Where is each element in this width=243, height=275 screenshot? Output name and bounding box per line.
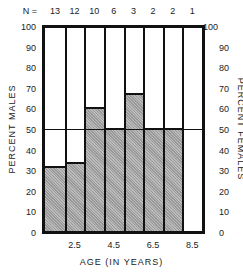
y-tick-left: 20: [16, 187, 36, 197]
y-tick-right: 100: [203, 22, 218, 32]
y-tick-left: 100: [16, 22, 36, 32]
y-tick-right: 80: [219, 63, 229, 73]
y-tick-left: 50: [16, 125, 36, 135]
y-axis-label-left: PERCENT MALES: [7, 79, 17, 179]
y-tick-right: 60: [219, 104, 229, 114]
n-value: 1: [182, 6, 202, 16]
bar-fill-males: [86, 107, 104, 231]
n-value: 2: [143, 6, 163, 16]
y-tick-right: 70: [219, 84, 229, 94]
y-tick-left: 0: [16, 228, 36, 238]
x-tick: 6.5: [141, 240, 165, 250]
y-tick-right: 40: [219, 146, 229, 156]
y-tick-left: 30: [16, 166, 36, 176]
bar-fill-males: [126, 93, 144, 231]
bar-fill-males: [165, 128, 183, 232]
n-row: N = 13121063221: [0, 6, 243, 18]
n-value: 2: [163, 6, 183, 16]
n-value: 12: [65, 6, 85, 16]
fifty-percent-line: [45, 129, 202, 130]
y-tick-left: 80: [16, 63, 36, 73]
n-value: 6: [104, 6, 124, 16]
bar-fill-males: [67, 162, 85, 231]
bar-1.5: [45, 28, 65, 231]
bar-3.5: [84, 28, 104, 231]
x-tick: 4.5: [102, 240, 126, 250]
y-tick-right: 50: [219, 125, 229, 135]
bar-6.5: [143, 28, 163, 231]
n-label: N =: [20, 6, 40, 16]
n-value: 13: [45, 6, 65, 16]
y-tick-right: 0: [219, 228, 224, 238]
x-axis-label: AGE (IN YEARS): [0, 257, 243, 267]
x-tick: 8.5: [180, 240, 204, 250]
y-tick-left: 90: [16, 43, 36, 53]
y-tick-left: 40: [16, 146, 36, 156]
y-tick-right: 90: [219, 43, 229, 53]
x-tick: 2.5: [62, 240, 86, 250]
n-value: 10: [84, 6, 104, 16]
n-value: 3: [124, 6, 144, 16]
bar-fill-males: [145, 128, 163, 232]
bar-fill-males: [45, 166, 65, 231]
bar-4.5: [104, 28, 124, 231]
y-tick-left: 60: [16, 104, 36, 114]
y-axis-label-right: PERCENT FEMALES: [236, 74, 243, 184]
bar-2.5: [65, 28, 85, 231]
y-tick-left: 70: [16, 84, 36, 94]
plot-area: [42, 25, 205, 234]
y-tick-right: 30: [219, 166, 229, 176]
bar-5.5: [124, 28, 144, 231]
bar-fill-males: [106, 128, 124, 232]
bar-7.5: [163, 28, 183, 231]
y-tick-left: 10: [16, 207, 36, 217]
y-tick-right: 10: [219, 207, 229, 217]
y-tick-right: 20: [219, 187, 229, 197]
bar-8.5: [182, 28, 202, 231]
